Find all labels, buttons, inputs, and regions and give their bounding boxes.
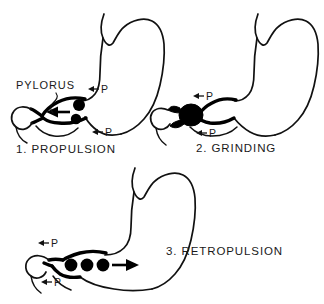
greater-curvature-panel3 bbox=[80, 277, 152, 291]
pressure-arrow-head-upper-panel1 bbox=[88, 86, 94, 92]
pressure-label-lower-panel3: P bbox=[54, 276, 61, 288]
pressure-label-lower-panel1: P bbox=[105, 126, 112, 138]
pressure-label-upper-panel3: P bbox=[51, 237, 58, 249]
lesser-curvature-panel3 bbox=[105, 192, 134, 255]
pyloric-canal-lower-panel1 bbox=[32, 118, 43, 123]
pressure-label-lower-panel2: P bbox=[209, 127, 216, 139]
closed-pylorus-lower-panel3 bbox=[44, 263, 52, 266]
gastric-motility-figure: P P PYLORUS 1. PROPULSION bbox=[0, 0, 324, 304]
panel-retropulsion: P P 3. RETROPULSION bbox=[26, 168, 283, 293]
pressure-label-upper-panel1: P bbox=[101, 83, 108, 95]
pylorus-neck-lower-panel2 bbox=[170, 120, 184, 128]
pressure-arrow-head-lower-panel1 bbox=[92, 129, 98, 135]
panel-caption-propulsion: 1. PROPULSION bbox=[16, 143, 116, 155]
pressure-arrow-head-lower-panel3 bbox=[41, 279, 47, 285]
closed-pylorus-panel3 bbox=[49, 259, 63, 260]
lesser-curvature-panel2 bbox=[235, 38, 257, 101]
duodenum-limb2-panel1 bbox=[36, 126, 78, 136]
diagram-canvas: P P PYLORUS 1. PROPULSION bbox=[0, 0, 324, 304]
pressure-arrow-head-upper-panel2 bbox=[193, 93, 199, 99]
food-particle bbox=[81, 259, 94, 272]
duodenal-bulb-panel2 bbox=[151, 108, 170, 129]
stomach-outline-panel2 bbox=[255, 14, 318, 135]
stomach-outline-panel1 bbox=[101, 14, 164, 134]
pylorus-annotation-label: PYLORUS bbox=[16, 79, 75, 91]
duodenum-limb-panel2 bbox=[156, 128, 166, 145]
food-particle bbox=[97, 259, 110, 272]
pressure-arrow-head-lower-panel2 bbox=[196, 130, 202, 136]
pressure-arrow-head-upper-panel3 bbox=[38, 240, 44, 246]
food-particle bbox=[71, 114, 81, 124]
stomach-outline-panel3 bbox=[132, 168, 195, 289]
retropulsion-flow-arrow-head bbox=[126, 259, 139, 271]
food-particle bbox=[73, 99, 85, 111]
panel-propulsion: P P PYLORUS 1. PROPULSION bbox=[12, 14, 165, 155]
pylorus-neck-panel2 bbox=[168, 106, 181, 113]
pressure-label-upper-panel2: P bbox=[206, 90, 213, 102]
panel-caption-grinding: 2. GRINDING bbox=[196, 142, 276, 154]
lesser-curvature-panel1 bbox=[81, 38, 103, 101]
duodenal-bulb-panel1 bbox=[12, 107, 32, 129]
greater-curvature-panel2 bbox=[234, 118, 275, 136]
panel-caption-retropulsion: 3. RETROPULSION bbox=[166, 245, 283, 257]
panel-grinding: P P 2. GRINDING bbox=[151, 14, 319, 154]
antrum-upper-wall-panel2 bbox=[199, 99, 236, 114]
antrum-upper-wall-panel3 bbox=[63, 252, 106, 261]
pyloric-canal-panel1 bbox=[31, 109, 42, 116]
food-particle bbox=[65, 259, 78, 272]
duodenal-bulb-panel3 bbox=[26, 256, 49, 278]
